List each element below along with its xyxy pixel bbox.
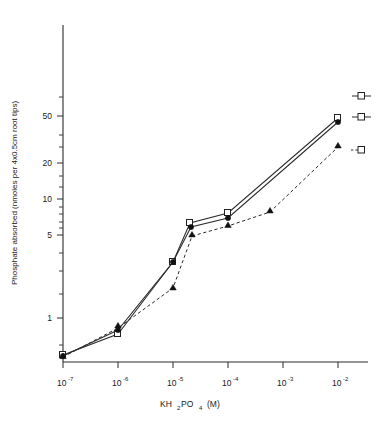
x-ticklabel-mantissa: 10 xyxy=(167,378,177,388)
x-ticklabel-1e-5: 10 -5 xyxy=(167,376,184,388)
y-ticklabel-20: 20 xyxy=(43,158,53,168)
legend-marker-open-square xyxy=(358,93,365,100)
x-ticklabel-exponent: -5 xyxy=(178,376,184,382)
y-axis-ticks xyxy=(57,97,63,345)
x-axis-ticks xyxy=(63,362,338,368)
series-open-square xyxy=(60,115,341,358)
series-filled-triangle-line xyxy=(63,147,338,357)
legend-marker-open-square xyxy=(358,114,365,121)
data-point-marker xyxy=(170,285,176,290)
y-ticklabel-10: 10 xyxy=(43,194,53,204)
y-ticklabel-5: 5 xyxy=(47,230,52,240)
x-ticklabel-mantissa: 10 xyxy=(277,378,287,388)
legend-item-1 xyxy=(352,114,371,121)
chart-figure: 50 20 10 5 1 10 -7 10 -6 10 -5 10 -4 xyxy=(0,0,382,423)
legend xyxy=(351,93,371,154)
legend-item-2 xyxy=(351,147,365,154)
x-ticklabel-mantissa: 10 xyxy=(112,378,122,388)
x-ticklabel-1e-7: 10 -7 xyxy=(57,376,74,388)
data-point-marker xyxy=(225,222,231,227)
data-point-marker xyxy=(335,143,341,148)
data-point-marker xyxy=(188,224,193,229)
x-ticklabel-1e-2: 10 -2 xyxy=(332,376,349,388)
data-point-marker xyxy=(225,210,231,216)
x-ticklabel-exponent: -4 xyxy=(233,376,239,382)
x-ticklabel-1e-3: 10 -3 xyxy=(277,376,294,388)
data-point-marker xyxy=(267,208,273,213)
x-ticklabel-exponent: -3 xyxy=(288,376,294,382)
x-axis-title-sub2: 4 xyxy=(199,405,203,411)
series-filled-circle-line xyxy=(63,122,338,356)
data-point-marker xyxy=(225,215,230,220)
legend-marker-open-square xyxy=(358,147,365,154)
phosphate-absorption-log-log-plot: 50 20 10 5 1 10 -7 10 -6 10 -5 10 -4 xyxy=(0,0,382,423)
x-ticklabel-mantissa: 10 xyxy=(222,378,232,388)
y-ticklabel-1: 1 xyxy=(47,313,52,323)
data-point-marker xyxy=(170,259,175,264)
data-point-marker xyxy=(115,323,121,328)
x-axis-title-mid: PO xyxy=(181,399,194,409)
x-ticklabel-exponent: -7 xyxy=(68,376,74,382)
x-axis-title-pre: KH xyxy=(160,399,172,409)
y-ticklabel-50: 50 xyxy=(43,111,53,121)
x-axis-title-unit: (M) xyxy=(207,399,220,409)
axes xyxy=(63,25,368,362)
x-ticklabel-exponent: -6 xyxy=(123,376,129,382)
x-axis-title: KH 2 PO 4 (M) xyxy=(160,399,220,411)
series-filled-circle xyxy=(60,119,340,358)
legend-item-0 xyxy=(352,93,371,100)
x-ticklabel-exponent: -2 xyxy=(343,376,349,382)
data-point-marker xyxy=(335,119,340,124)
series-filled-triangle xyxy=(60,143,341,359)
x-ticklabel-mantissa: 10 xyxy=(57,378,67,388)
x-ticklabel-1e-4: 10 -4 xyxy=(222,376,239,388)
data-point-marker xyxy=(189,232,195,237)
series-open-square-line xyxy=(63,118,338,355)
x-ticklabel-1e-6: 10 -6 xyxy=(112,376,129,388)
x-ticklabel-mantissa: 10 xyxy=(332,378,342,388)
y-axis-title: Phosphate absorbed (nmoles per 4x0.5cm r… xyxy=(10,101,19,285)
